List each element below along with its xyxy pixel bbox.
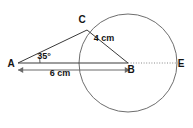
point-label-b: B [127, 64, 134, 75]
point-label-c: C [78, 14, 85, 25]
distance-length-label: 6 cm [50, 68, 71, 78]
point-label-a: A [7, 58, 14, 69]
geometry-canvas: A B C E 4 cm 6 cm 35° [0, 0, 193, 128]
figure-background [0, 0, 193, 128]
angle-measure-label: 35° [37, 51, 51, 61]
geometry-figure: A B C E 4 cm 6 cm 35° [0, 0, 193, 128]
radius-length-label: 4 cm [94, 33, 115, 43]
point-label-e: E [178, 58, 185, 69]
